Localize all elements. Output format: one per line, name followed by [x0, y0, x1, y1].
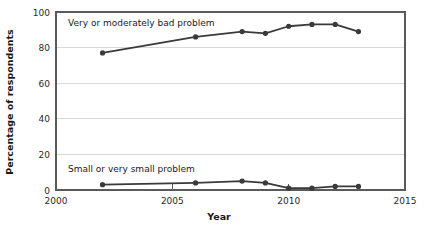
y-tick-label: 0: [44, 186, 50, 196]
data-point: [333, 184, 338, 189]
series-label-1: Small or very small problem: [68, 164, 195, 174]
data-point: [309, 186, 314, 191]
data-point: [286, 186, 291, 191]
line-chart: 020406080100 2000200520102015 Very or mo…: [0, 0, 428, 227]
x-tick-label: 2000: [45, 196, 68, 206]
data-point: [286, 24, 291, 29]
data-point: [333, 22, 338, 27]
series-label-0: Very or moderately bad problem: [68, 18, 214, 28]
y-tick-label: 100: [33, 8, 50, 18]
data-point: [240, 29, 245, 34]
y-axis-tick-labels: 020406080100: [33, 8, 50, 196]
y-axis-title: Percentage of respondents: [4, 29, 15, 175]
y-tick-label: 20: [39, 150, 51, 160]
y-tick-label: 60: [39, 79, 51, 89]
series-annotations: Very or moderately bad problemSmall or v…: [68, 18, 214, 174]
data-point: [240, 179, 245, 184]
data-point: [100, 182, 105, 187]
y-tick-label: 40: [39, 114, 51, 124]
gridlines-group: [56, 48, 405, 155]
x-axis-title: Year: [206, 211, 231, 222]
x-axis-tick-labels: 2000200520102015: [45, 196, 417, 206]
x-tick-label: 2005: [161, 196, 184, 206]
x-tick-label: 2010: [277, 196, 300, 206]
series-line-1: [103, 181, 359, 188]
data-point: [193, 180, 198, 185]
data-point: [100, 50, 105, 55]
data-point: [356, 184, 361, 189]
data-point: [356, 29, 361, 34]
data-point: [193, 34, 198, 39]
chart-page: 020406080100 2000200520102015 Very or mo…: [0, 0, 428, 227]
y-tick-label: 80: [39, 43, 51, 53]
data-point: [309, 22, 314, 27]
series-line-0: [103, 24, 359, 52]
data-point: [263, 31, 268, 36]
data-point: [263, 180, 268, 185]
x-tick-label: 2015: [394, 196, 417, 206]
